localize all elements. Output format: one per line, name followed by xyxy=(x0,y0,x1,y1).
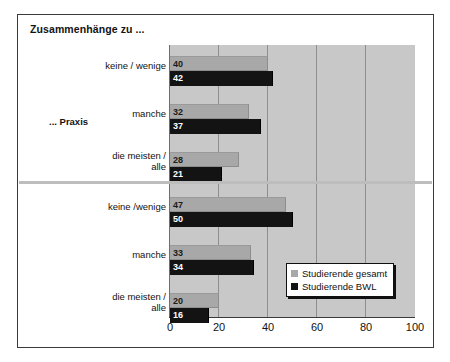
bar-value: 20 xyxy=(173,294,183,309)
bar-bwl-keine-wenige-2: 50 xyxy=(170,212,293,227)
category-label-keine-wenige-2: keine /wenige xyxy=(36,201,166,212)
x-tick-0: 0 xyxy=(167,321,173,333)
bar-value: 40 xyxy=(173,57,183,72)
bar-bwl-manche-2: 34 xyxy=(170,260,254,275)
category-label-line: manche xyxy=(132,249,166,260)
x-tick-40: 40 xyxy=(262,321,274,333)
bar-bwl-keine-wenige-praxis: 42 xyxy=(170,71,273,86)
group-label-praxis: ... Praxis xyxy=(49,116,88,127)
bar-bwl-die-meisten-alle-praxis: 21 xyxy=(170,167,222,182)
category-label-line: keine /wenige xyxy=(108,201,166,212)
legend-item-studierende-bwl: Studierende BWL xyxy=(291,280,387,293)
category-label-die-meisten-alle-praxis: die meisten / alle xyxy=(36,150,166,172)
x-tick-80: 80 xyxy=(360,321,372,333)
category-label-line: die meisten / xyxy=(36,150,166,161)
category-label-line: keine / wenige xyxy=(105,60,166,71)
category-label-manche-2: manche xyxy=(36,249,166,260)
bar-gesamt-manche-praxis: 32 xyxy=(170,104,249,119)
bar-gesamt-keine-wenige-2: 47 xyxy=(170,197,286,212)
bar-value: 21 xyxy=(173,167,183,182)
category-label-keine-wenige-praxis: keine / wenige xyxy=(36,60,166,71)
bar-bwl-manche-praxis: 37 xyxy=(170,119,261,134)
legend-swatch-icon xyxy=(291,283,298,290)
bar-gesamt-die-meisten-alle-praxis: 28 xyxy=(170,152,239,167)
chart-legend: Studierende gesamt Studierende BWL xyxy=(286,263,394,297)
chart-figure-frame: Zusammenhänge zu ... 40 42 32 37 28 21 4… xyxy=(17,14,434,348)
category-label-line: alle xyxy=(36,302,166,313)
x-tick-60: 60 xyxy=(311,321,323,333)
x-tick-20: 20 xyxy=(213,321,225,333)
legend-swatch-icon xyxy=(291,270,298,277)
bar-value: 42 xyxy=(173,71,183,86)
x-axis-labels: 0 20 40 60 80 100 xyxy=(169,321,415,339)
bar-value: 34 xyxy=(173,260,183,275)
legend-label: Studierende gesamt xyxy=(302,268,387,279)
legend-label: Studierende BWL xyxy=(302,281,376,292)
page-title: Zusammenhänge zu ... xyxy=(30,23,145,35)
bar-gesamt-die-meisten-alle-2: 20 xyxy=(170,293,219,308)
bar-gesamt-manche-2: 33 xyxy=(170,245,251,260)
bar-value: 50 xyxy=(173,212,183,227)
panel-separator xyxy=(19,181,432,184)
legend-item-studierende-gesamt: Studierende gesamt xyxy=(291,267,387,280)
category-label-line: die meisten / xyxy=(36,291,166,302)
category-label-line: manche xyxy=(132,108,166,119)
x-tick-100: 100 xyxy=(406,321,424,333)
category-label-die-meisten-alle-2: die meisten / alle xyxy=(36,291,166,313)
bar-value: 37 xyxy=(173,119,183,134)
bar-value: 32 xyxy=(173,105,183,120)
bar-value: 33 xyxy=(173,246,183,261)
bar-value: 47 xyxy=(173,198,183,213)
bar-value: 28 xyxy=(173,153,183,168)
category-label-line: alle xyxy=(36,161,166,172)
bar-gesamt-keine-wenige-praxis: 40 xyxy=(170,56,268,71)
